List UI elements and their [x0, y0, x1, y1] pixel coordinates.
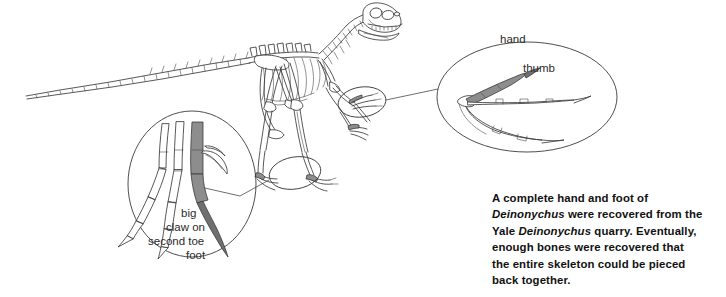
caption-genus-2: Deinonychus	[518, 225, 591, 237]
caption-line-2: were recovered from the	[565, 208, 703, 220]
caption-line-3-a: Yale	[492, 225, 518, 237]
hand-callout-circle	[437, 42, 617, 152]
label-thumb: thumb	[523, 62, 555, 74]
leader-line-foot	[196, 180, 269, 196]
caption-line-5: the entire skeleton could be pieced	[492, 258, 685, 270]
neck-group	[319, 15, 366, 64]
skull-group	[359, 3, 402, 40]
label-hand: hand	[500, 33, 526, 45]
leader-line-hand	[386, 89, 438, 100]
label-claw-line-3: second toe	[148, 235, 204, 247]
forelimb-group	[318, 59, 388, 122]
caption-genus-1: Deinonychus	[492, 208, 565, 220]
caption-line-1: A complete hand and foot of	[492, 192, 648, 204]
figure-canvas: .ln { fill:none; stroke:#3a3a3a; stroke-…	[0, 0, 726, 297]
caption-line-6: back together.	[492, 274, 571, 286]
label-foot: foot	[186, 249, 205, 261]
caption-text: A complete hand and foot of Deinonychus …	[492, 190, 720, 288]
far-hindlimb-group	[255, 66, 282, 190]
label-claw-line-2: claw on	[166, 221, 205, 233]
caption-line-4: enough bones were recovered that	[492, 241, 684, 253]
label-claw-line-1: big	[181, 207, 196, 219]
tail-group	[26, 52, 250, 99]
caption-line-3-b: quarry. Eventually,	[591, 225, 696, 237]
